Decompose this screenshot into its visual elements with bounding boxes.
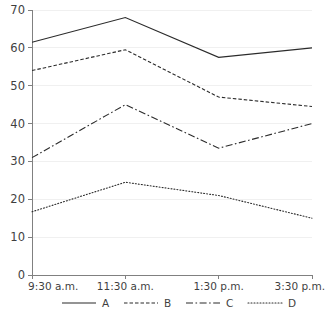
x-axis-ticks xyxy=(32,275,312,279)
series-line-D xyxy=(32,182,312,218)
y-tick-label: 70 xyxy=(10,3,25,17)
y-axis-ticks xyxy=(28,10,32,275)
chart-legend: ABCD xyxy=(62,297,296,309)
legend-label-C: C xyxy=(226,297,233,309)
series-line-C xyxy=(32,105,312,158)
y-tick-label: 60 xyxy=(10,41,25,55)
y-axis-tick-labels: 010203040506070 xyxy=(10,3,25,282)
y-tick-label: 0 xyxy=(18,268,25,282)
legend-label-D: D xyxy=(288,297,296,309)
line-chart: 010203040506070 9:30 a.m.11:30 a.m.1:30 … xyxy=(0,0,326,318)
y-tick-label: 40 xyxy=(10,117,25,131)
y-tick-label: 30 xyxy=(10,154,25,168)
x-tick-label: 11:30 a.m. xyxy=(97,280,154,292)
gridlines xyxy=(32,10,312,237)
y-tick-label: 20 xyxy=(10,192,25,206)
x-axis-tick-labels: 9:30 a.m.11:30 a.m.1:30 p.m.3:30 p.m. xyxy=(28,280,325,292)
x-tick-label: 9:30 a.m. xyxy=(28,280,78,292)
legend-label-B: B xyxy=(164,297,171,309)
series-line-B xyxy=(32,50,312,107)
y-tick-label: 10 xyxy=(10,230,25,244)
x-tick-label: 1:30 p.m. xyxy=(193,280,244,292)
y-tick-label: 50 xyxy=(10,79,25,93)
chart-canvas: 010203040506070 9:30 a.m.11:30 a.m.1:30 … xyxy=(0,0,326,318)
x-tick-label: 3:30 p.m. xyxy=(275,280,326,292)
legend-label-A: A xyxy=(102,297,110,309)
series-line-A xyxy=(32,18,312,58)
